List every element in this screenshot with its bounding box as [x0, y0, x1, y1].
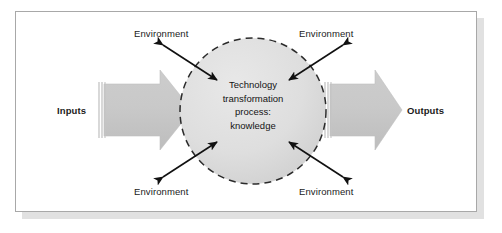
core-process-text: Technology transformation process: knowl…	[192, 78, 314, 132]
core-line-1: Technology	[192, 78, 314, 92]
core-line-3: process:	[192, 105, 314, 119]
environment-label-top-left: Environment	[134, 29, 188, 39]
environment-label-bottom-right: Environment	[299, 187, 353, 197]
diagram-canvas: Environment Environment Environment Envi…	[0, 0, 502, 233]
outputs-label: Outputs	[407, 106, 444, 116]
core-line-4: knowledge	[192, 119, 314, 133]
core-line-2: transformation	[192, 92, 314, 106]
environment-label-bottom-left: Environment	[134, 187, 188, 197]
input-arrow	[99, 70, 192, 150]
environment-label-top-right: Environment	[299, 29, 353, 39]
output-arrow	[325, 70, 402, 150]
inputs-label: Inputs	[57, 106, 86, 116]
